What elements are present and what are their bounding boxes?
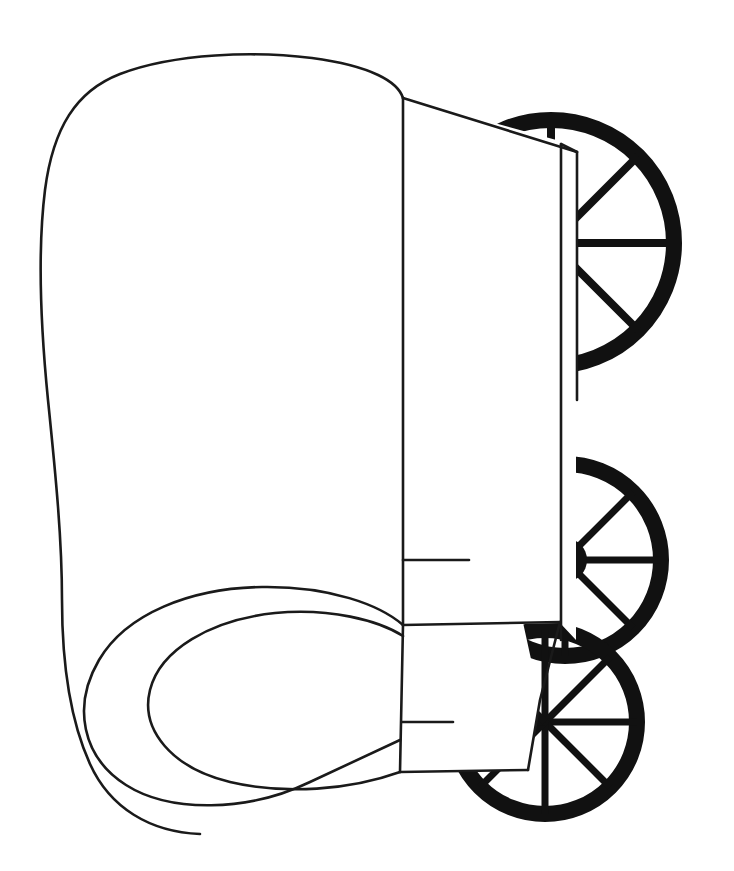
illustration-canvas: Covered Wagon Coloring Page Black outlin…	[0, 0, 734, 871]
covered-wagon-artwork: Covered Wagon Coloring Page Black outlin…	[0, 0, 734, 871]
